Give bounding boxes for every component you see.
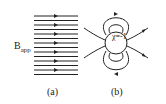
arrow-icons (54, 14, 58, 72)
caption-a: (a) (47, 86, 58, 97)
figure: Bapp χ=-1 (a) (b) (0, 0, 166, 104)
dipole-field-lines (84, 18, 148, 70)
susceptibility-label: χ=-1 (112, 32, 127, 41)
caption-b: (b) (111, 86, 123, 97)
applied-field-label: Bapp (14, 40, 31, 54)
dipole-arrow-icons (114, 12, 146, 76)
